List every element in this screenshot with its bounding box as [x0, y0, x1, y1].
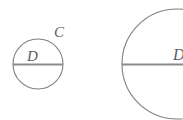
small-circle-inner-label: D	[27, 49, 38, 64]
geometry-figure: D C D	[0, 0, 183, 120]
large-circle-inner-label: D	[173, 47, 183, 63]
small-circle-outer-label: C	[54, 25, 64, 40]
